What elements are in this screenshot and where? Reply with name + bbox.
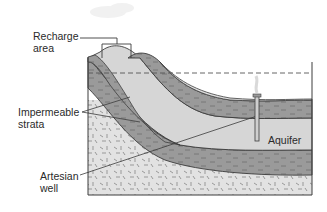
cloud-icon xyxy=(90,3,134,18)
recharge-leader xyxy=(80,38,117,44)
label-line: area xyxy=(33,42,79,54)
label-line: Impermeable xyxy=(18,106,79,118)
aquifer-label: Aquifer xyxy=(268,134,301,146)
label-line: strata xyxy=(18,118,79,130)
label-line: Artesian xyxy=(40,170,79,182)
label-line: Recharge xyxy=(33,30,79,42)
recharge-area-label: Recharge area xyxy=(33,30,79,54)
artesian-well-label: Artesian well xyxy=(40,170,79,194)
impermeable-strata-label: Impermeable strata xyxy=(18,106,79,130)
label-line: well xyxy=(40,182,79,194)
